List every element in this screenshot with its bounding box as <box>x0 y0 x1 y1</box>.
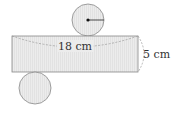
cylinder-net-diagram: 18 cm 5 cm <box>0 0 180 113</box>
height-label: 5 cm <box>143 48 171 61</box>
top-circle <box>72 4 104 36</box>
bottom-circle <box>19 72 51 104</box>
center-dot <box>86 18 89 21</box>
length-label: 18 cm <box>58 40 93 53</box>
